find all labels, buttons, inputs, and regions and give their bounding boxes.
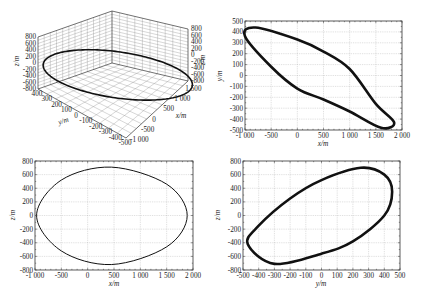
- z-axis-label-yz: z/m: [213, 209, 222, 221]
- chart-xz-projection: -1 000-50005001 0001 5002 000 8006004002…: [8, 158, 201, 289]
- x-tick-label: 400: [379, 272, 390, 280]
- x-tick-label: 0: [86, 272, 90, 280]
- y-ticks-xy: 5004003002001000-100-200-300-400-500: [230, 18, 244, 135]
- grid-xy: [245, 21, 402, 130]
- y-tick-label: -800: [20, 267, 34, 275]
- figure: 8006004002000-200-400-600-800 8006004002…: [0, 0, 422, 304]
- x-tick-label: 500: [395, 272, 406, 280]
- y-tick-label: 200: [230, 198, 241, 206]
- x-tick-label-3d: 500: [163, 105, 174, 113]
- y-tick-label: 800: [230, 158, 241, 166]
- x-tick-label: 2 000: [185, 272, 202, 280]
- y-tick-label: 0: [29, 212, 33, 220]
- x-tick-label: 200: [348, 272, 359, 280]
- orbit-curve-yz: [247, 168, 392, 264]
- box-edge: [126, 81, 188, 138]
- y-tick-label: -400: [20, 239, 34, 247]
- x-tick-label: 0: [296, 132, 300, 140]
- z-ticks-left: 8006004002000-200-400-600-800: [23, 33, 37, 93]
- y-tick-label: 800: [22, 158, 33, 166]
- y-tick-label: -600: [228, 253, 242, 261]
- chart-xy-projection: -1 000-50005001 0001 5002 000 5004003002…: [215, 18, 410, 149]
- x-axis-label-xy: x/m: [317, 139, 329, 148]
- chart-yz-projection: -500-400-300-200-1000100200300400500 800…: [213, 158, 406, 289]
- x-tick-label-3d: 0: [152, 116, 156, 124]
- y-tick-label: -200: [20, 226, 34, 234]
- z-axis-label-right: z/m: [198, 54, 207, 66]
- x-tick-label-3d: -1 000: [130, 136, 149, 144]
- x-tick-label-3d: 1 000: [174, 95, 191, 103]
- y-tick-label-3d: 0: [74, 112, 78, 120]
- y-axis-label-xy: y/m: [215, 70, 224, 82]
- y-tick-label: 0: [237, 212, 241, 220]
- y-axis-label-yz: y/m: [315, 279, 327, 288]
- grid-3d: [38, 13, 188, 133]
- x-tick-label: 100: [332, 272, 343, 280]
- x-tick-label-3d: -500: [141, 126, 155, 134]
- y-tick-label: -200: [228, 226, 242, 234]
- y-tick-label: -500: [230, 127, 244, 135]
- y-tick-label: -400: [230, 116, 244, 124]
- y-tick-label: 400: [230, 185, 241, 193]
- y-tick-label: -200: [230, 94, 244, 102]
- chart-3d-orbit: 8006004002000-200-400-600-800 8006004002…: [12, 11, 207, 147]
- y-tick-label: -100: [230, 83, 244, 91]
- x-tick-label: -500: [265, 132, 279, 140]
- x-tick-label: 1 500: [159, 272, 176, 280]
- y-tick-label: 100: [232, 61, 243, 69]
- y-tick-label: 400: [232, 28, 243, 36]
- x-tick-label: 1 000: [342, 132, 359, 140]
- grid-xz: [35, 161, 193, 270]
- x-tick-label-3d: 1 500: [185, 85, 202, 93]
- y-tick-label: 400: [22, 185, 33, 193]
- x-axis-label-xz: x/m: [108, 279, 120, 288]
- y-tick-label: -400: [228, 239, 242, 247]
- orbit-curve-xy: [244, 27, 394, 128]
- y-tick-label: -800: [228, 267, 242, 275]
- z-ticks-xz: 8006004002000-200-400-600-800: [20, 158, 34, 275]
- y-tick-label: -600: [20, 253, 34, 261]
- x-tick-label: -300: [268, 272, 282, 280]
- y-tick-label: 500: [232, 18, 243, 26]
- z-ticks-yz: 8006004002000-200-400-600-800: [228, 158, 242, 275]
- x-axis-label-3d: x/m: [175, 111, 187, 120]
- y-tick-label: 200: [232, 50, 243, 58]
- x-tick-label: -400: [252, 272, 266, 280]
- y-tick-label: 300: [232, 39, 243, 47]
- y-tick-label: 600: [22, 171, 33, 179]
- y-tick-label: 200: [22, 198, 33, 206]
- x-tick-label: -100: [299, 272, 313, 280]
- z-axis-label-left: z/m: [12, 55, 21, 67]
- x-tick-label: 300: [363, 272, 374, 280]
- x-ticks-3d: -1 000-50005001 0001 500: [130, 85, 202, 144]
- z-axis-label-xz: z/m: [8, 209, 17, 221]
- x-tick-label: -500: [55, 272, 69, 280]
- x-tick-label: -200: [284, 272, 298, 280]
- x-tick-label: 2 000: [394, 132, 411, 140]
- orbit-curve-xz: [37, 167, 188, 265]
- y-tick-label: 0: [239, 72, 243, 80]
- floor-gridline: [73, 70, 142, 108]
- x-tick-label: 1 000: [132, 272, 149, 280]
- y-tick-label-3d: 100: [61, 106, 72, 114]
- y-tick-label: -300: [230, 105, 244, 113]
- y-tick-label: 600: [230, 171, 241, 179]
- y-axis-label-3d: y/m: [56, 114, 71, 126]
- x-tick-label: 1 500: [368, 132, 385, 140]
